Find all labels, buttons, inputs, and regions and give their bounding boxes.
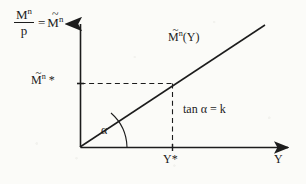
m-superscript: n [59,14,63,24]
fraction-numerator: Mn [14,8,34,22]
y-axis-label-fraction: Mn p [14,8,34,37]
curve-label: ~Mn(Y) [168,31,199,43]
angle-label: α [101,124,107,136]
numerator-superscript: n [28,6,32,16]
ytick-mtilde: ~Mn [31,74,46,86]
economics-diagram: Mn p = ~Mn ~Mn(Y) ~Mn* tan α = k α Y* Y [0,0,306,184]
curve-label-mtilde: ~Mn [168,31,183,43]
y-axis-tick-label: ~Mn* [31,74,55,86]
tilde-accent: ~ [172,24,178,35]
star-symbol: * [49,73,55,87]
tilde-accent: ~ [52,9,58,21]
fraction-denominator: p [19,23,30,37]
m-superscript: n [179,29,183,38]
x-axis-label: Y [274,153,283,165]
equals-sign: = [38,16,45,29]
m-superscript: n [42,72,46,81]
y-axis-label: Mn p = ~Mn [14,8,63,37]
slope-annotation: tan α = k [183,103,226,115]
x-axis-tick-label: Y* [163,153,178,165]
curve-label-argument: (Y) [183,30,200,44]
numerator-symbol: M [16,7,28,22]
tilde-accent: ~ [35,67,41,78]
y-axis-mtilde: ~Mn [47,16,63,29]
